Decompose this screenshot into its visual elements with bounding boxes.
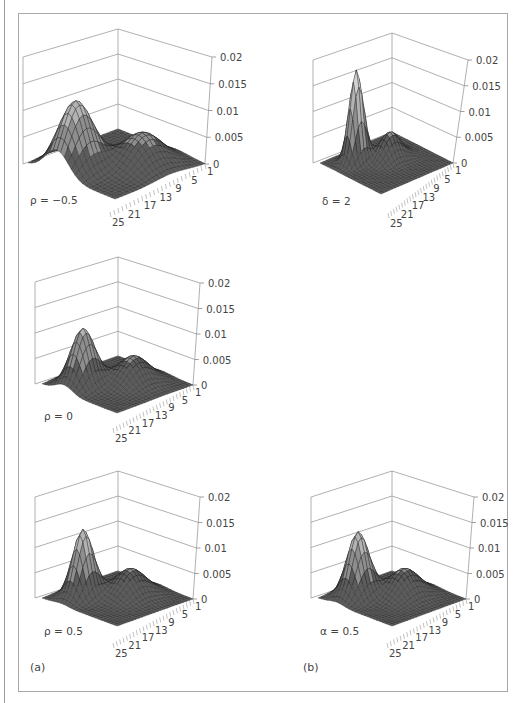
z-tick-label: 0.01 <box>478 543 500 554</box>
z-tick-label: 0.005 <box>203 569 232 580</box>
parameter-label: α = 0.5 <box>320 625 359 637</box>
x-tick-label: 1 <box>468 601 474 612</box>
surface-plot-2: 0.020.0150.010.005025211713951ρ = 0 <box>35 257 235 444</box>
x-tick-label: 9 <box>168 617 174 628</box>
surface-plot-3: 0.020.0150.010.005025211713951ρ = 0.5 <box>35 471 235 659</box>
x-tick-label: 1 <box>195 387 201 398</box>
panel-tag-a: (a) <box>30 661 45 674</box>
parameter-label: δ = 2 <box>322 195 351 207</box>
x-tick-label: 5 <box>191 175 197 186</box>
parameter-label: ρ = 0.5 <box>44 625 83 637</box>
x-tick-label: 9 <box>168 402 174 413</box>
x-tick-label: 21 <box>128 209 141 220</box>
x-tick-label: 17 <box>144 200 157 211</box>
z-tick-label: 0.015 <box>206 304 235 315</box>
x-tick-label: 25 <box>115 433 128 444</box>
z-tick-label: 0.02 <box>476 55 498 66</box>
x-tick-label: 9 <box>175 183 181 194</box>
x-tick-label: 17 <box>142 418 155 429</box>
surface-plot-1: 0.020.0150.010.005025211713951δ = 2 <box>313 33 501 229</box>
z-tick-label: 0 <box>201 380 207 391</box>
z-tick-label: 0.005 <box>203 355 232 366</box>
z-tick-label: 0.01 <box>217 106 239 117</box>
z-tick-label: 0.02 <box>208 278 230 289</box>
x-tick-label: 13 <box>160 192 173 203</box>
x-tick-label: 21 <box>128 640 141 651</box>
z-tick-label: 0.02 <box>220 52 242 63</box>
z-tick-label: 0.005 <box>465 132 494 143</box>
x-tick-label: 5 <box>455 609 461 620</box>
z-tick-label: 0 <box>201 594 207 605</box>
z-tick-label: 0.01 <box>205 329 227 340</box>
x-tick-label: 5 <box>182 609 188 620</box>
panel-tag-b: (b) <box>303 661 319 674</box>
x-tick-label: 13 <box>429 625 442 636</box>
surface-plots-figure: 0.020.0150.010.005025211713951ρ = −0.50.… <box>0 0 519 703</box>
x-tick-label: 1 <box>207 166 213 177</box>
z-tick-label: 0.015 <box>480 518 509 529</box>
x-tick-label: 25 <box>389 648 402 659</box>
x-tick-label: 9 <box>433 183 439 194</box>
x-tick-label: 13 <box>155 410 168 421</box>
parameter-label: ρ = 0 <box>44 410 73 422</box>
surface-plot-0: 0.020.0150.010.005025211713951ρ = −0.5 <box>23 29 247 228</box>
x-tick-label: 17 <box>415 632 428 643</box>
x-tick-label: 17 <box>142 632 155 643</box>
parameter-label: ρ = −0.5 <box>30 194 78 206</box>
z-tick-label: 0 <box>474 594 480 605</box>
x-tick-label: 5 <box>444 174 450 185</box>
surface-plot-4: 0.020.0150.010.005025211713951α = 0.5 <box>311 471 509 659</box>
x-tick-label: 13 <box>155 625 168 636</box>
z-tick-label: 0.005 <box>215 132 244 143</box>
z-tick-label: 0.015 <box>218 79 247 90</box>
z-tick-label: 0.01 <box>205 543 227 554</box>
z-tick-label: 0.02 <box>482 492 504 503</box>
z-tick-label: 0.01 <box>469 107 491 118</box>
z-tick-label: 0.015 <box>472 81 501 92</box>
x-tick-label: 25 <box>115 648 128 659</box>
x-tick-label: 21 <box>128 425 141 436</box>
z-tick-label: 0.02 <box>208 492 230 503</box>
z-tick-label: 0 <box>461 158 467 169</box>
z-tick-label: 0.015 <box>206 518 235 529</box>
x-tick-label: 5 <box>182 395 188 406</box>
x-tick-label: 25 <box>112 217 125 228</box>
z-tick-label: 0 <box>213 159 219 170</box>
x-tick-label: 21 <box>402 640 415 651</box>
x-tick-label: 9 <box>442 617 448 628</box>
x-tick-label: 1 <box>195 601 201 612</box>
x-tick-label: 1 <box>455 165 461 176</box>
z-tick-label: 0.005 <box>476 569 505 580</box>
